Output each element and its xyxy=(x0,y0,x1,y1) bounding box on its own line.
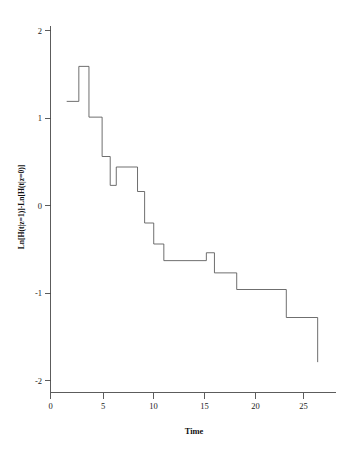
x-tick-group: 5 xyxy=(101,393,105,412)
x-tick-label: 20 xyxy=(251,401,260,411)
y-tick-group: -1 xyxy=(35,288,51,298)
y-tick-group: -2 xyxy=(35,376,51,386)
y-tick-label: 2 xyxy=(38,26,42,36)
x-tick-label: 10 xyxy=(149,401,158,411)
x-tick-group: 15 xyxy=(200,393,209,412)
log-cumulative-hazard-plot: 2 1 0 -1 -2 0 xyxy=(0,0,346,453)
x-axis-ticks: 0 5 10 15 20 25 xyxy=(48,393,307,412)
x-tick-label: 0 xyxy=(48,401,52,411)
x-axis-title: Time xyxy=(185,426,204,436)
y-tick-label: 1 xyxy=(38,113,42,123)
y-tick-label: 0 xyxy=(38,201,42,211)
x-tick-label: 15 xyxy=(200,401,209,411)
chart-container: 2 1 0 -1 -2 0 xyxy=(0,0,346,453)
y-axis-ticks: 2 1 0 -1 -2 xyxy=(35,26,51,386)
y-tick-group: 1 xyxy=(38,113,51,123)
y-axis-title: Ln[H(t|z=1)]-Ln[H(t|z=0)] xyxy=(17,165,26,250)
y-tick-label: -1 xyxy=(35,288,42,298)
x-tick-label: 25 xyxy=(299,401,308,411)
y-tick-label: -2 xyxy=(35,376,42,386)
x-tick-group: 10 xyxy=(149,393,158,412)
x-tick-group: 20 xyxy=(251,393,260,412)
x-tick-group: 0 xyxy=(48,393,52,412)
y-tick-group: 2 xyxy=(38,26,51,36)
x-tick-label: 5 xyxy=(101,401,105,411)
x-tick-group: 25 xyxy=(299,393,308,412)
step-curve-series xyxy=(67,66,318,362)
y-tick-group: 0 xyxy=(38,201,51,211)
